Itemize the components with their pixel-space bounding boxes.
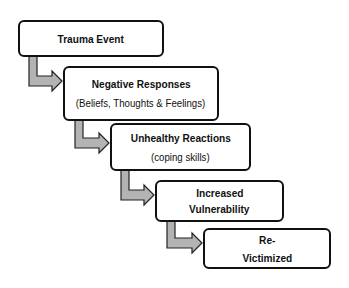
step-title: Unhealthy Reactions — [130, 130, 230, 146]
arrow-4-icon — [167, 221, 202, 253]
step-title: Trauma Event — [58, 31, 124, 47]
step-re-victimized: Re- Victimized — [203, 228, 331, 269]
arrow-1-icon — [29, 56, 62, 91]
step-title: Negative Responses — [92, 76, 191, 92]
arrow-3-icon — [121, 170, 154, 205]
step-title: Increased — [196, 185, 243, 201]
step-title: Re- — [259, 232, 275, 248]
step-increased-vulnerability: Increased Vulnerability — [155, 180, 284, 222]
step-subtitle: Vulnerability — [189, 201, 249, 217]
step-subtitle: (coping skills) — [151, 149, 210, 165]
arrow-2-icon — [75, 120, 109, 153]
step-subtitle: Victimized — [242, 250, 292, 266]
step-unhealthy-reactions: Unhealthy Reactions (coping skills) — [110, 123, 251, 171]
step-negative-responses: Negative Responses (Beliefs, Thoughts & … — [63, 66, 219, 121]
step-trauma-event: Trauma Event — [18, 20, 164, 57]
step-subtitle: (Beliefs, Thoughts & Feelings) — [76, 95, 205, 111]
